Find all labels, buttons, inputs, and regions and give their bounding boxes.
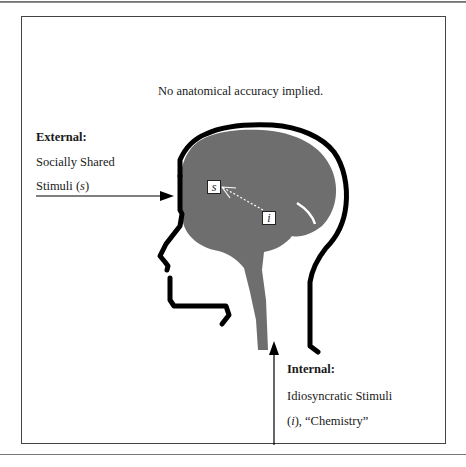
internal-arrow (269, 341, 279, 445)
external-arrow (36, 191, 174, 201)
marker-i: i (262, 211, 276, 225)
marker-s: s (207, 180, 221, 194)
head-diagram (0, 0, 466, 467)
